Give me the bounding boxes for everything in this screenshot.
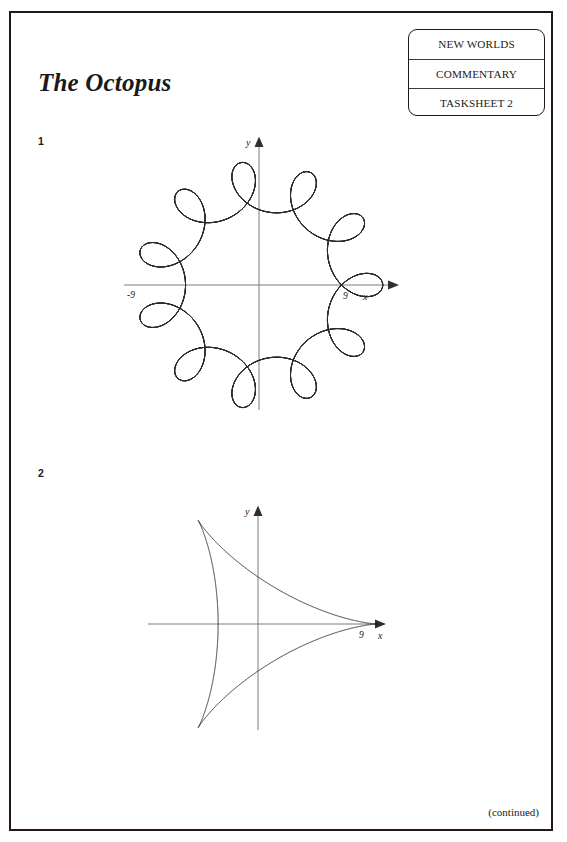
taskssheet-stamp-box: NEW WORLDS COMMENTARY TASKSHEET 2: [408, 29, 545, 116]
stamp-line-type: COMMENTARY: [409, 59, 544, 88]
axes-group-2: [148, 506, 386, 731]
x-axis-label-2: x: [377, 630, 383, 641]
figure-deltoid-curve: 9 x y: [130, 462, 420, 747]
figure-octopus-curve: -9 9 x y: [110, 128, 410, 418]
stamp-line-series: NEW WORLDS: [409, 30, 544, 59]
axes-group-1: [124, 137, 399, 411]
y-axis-arrowhead-2: [254, 506, 263, 517]
question-number-2: 2: [38, 467, 44, 479]
x-tick-label-9-fig2: 9: [359, 630, 364, 640]
x-tick-label-9: 9: [343, 291, 348, 301]
deltoid-chart-svg: 9 x y: [130, 462, 420, 747]
x-tick-label-negative-9: -9: [127, 290, 135, 300]
x-axis-label-1: x: [362, 291, 368, 302]
octopus-chart-svg: -9 9 x y: [110, 128, 410, 418]
page-title: The Octopus: [38, 69, 171, 97]
x-axis-arrowhead-1: [388, 281, 399, 290]
y-axis-label-1: y: [245, 137, 251, 148]
stamp-line-tasksheet: TASKSHEET 2: [409, 88, 544, 116]
footer-continued-note: (continued): [488, 806, 539, 818]
page: The Octopus NEW WORLDS COMMENTARY TASKSH…: [0, 0, 567, 842]
y-axis-label-2: y: [244, 506, 250, 517]
y-axis-arrowhead-1: [255, 137, 264, 148]
question-number-1: 1: [38, 135, 44, 147]
